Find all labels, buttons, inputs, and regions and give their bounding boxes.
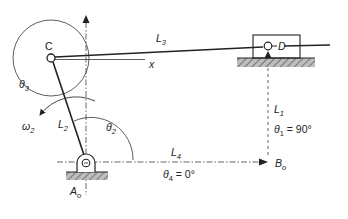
label-l4: L4 <box>171 146 181 161</box>
label-c: C <box>45 40 53 52</box>
ground-pivot-ao <box>66 154 108 180</box>
label-l1: L1 <box>274 103 284 118</box>
slider-crank-diagram: C D L3 x θ3 ω2 L2 θ2 L1 θ1 = 90° L4 θ4 =… <box>0 0 348 219</box>
label-x: x <box>148 58 155 70</box>
label-omega2: ω2 <box>22 120 35 135</box>
label-d: D <box>278 40 286 52</box>
joint-d <box>264 42 272 50</box>
slider-d <box>237 35 315 67</box>
joint-c <box>47 54 55 62</box>
label-l3: L3 <box>156 32 167 47</box>
label-ao: Ao <box>69 185 81 200</box>
ground-hatch-d <box>237 58 315 67</box>
bo-arrow-icon <box>259 159 268 166</box>
slider-rail-line <box>284 45 330 46</box>
slider-support-icon <box>265 51 272 58</box>
label-theta2: θ2 <box>106 121 117 136</box>
label-l2: L2 <box>58 118 69 133</box>
link-l2 <box>53 62 85 158</box>
label-theta1: θ1 = 90° <box>274 123 312 138</box>
label-theta3: θ3 <box>19 78 30 93</box>
label-theta4: θ4 = 0° <box>163 168 195 183</box>
ground-hatch-ao <box>66 172 108 180</box>
up-arrow-icon <box>83 15 90 23</box>
label-bo: Bo <box>275 157 286 172</box>
